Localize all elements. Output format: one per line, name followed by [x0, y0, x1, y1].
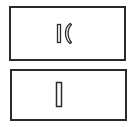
- bottom-vertical-bar-icon: [57, 83, 62, 107]
- diagram-shapes: [0, 0, 136, 127]
- top-vertical-bar-icon: [58, 25, 61, 43]
- top-crescent-icon: [66, 24, 72, 44]
